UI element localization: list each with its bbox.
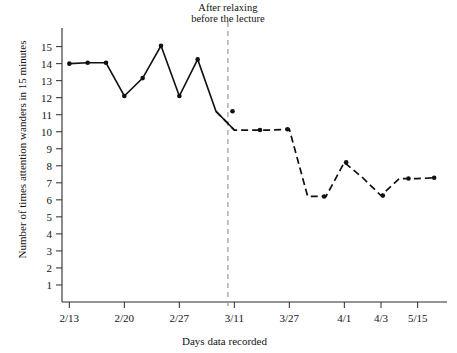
x-tick-label: 4/1 [337, 312, 351, 324]
after-relaxing-phase-line [216, 111, 436, 196]
x-tick-label: 2/27 [170, 312, 190, 324]
y-tick-label: 14 [41, 58, 53, 70]
x-tick-label: 2/13 [60, 312, 80, 324]
y-axis-title: Number of times attention wanders in 15 … [16, 41, 28, 259]
data-point-marker [159, 43, 164, 48]
y-tick-label: 15 [41, 41, 53, 53]
data-point-markers [67, 43, 436, 198]
data-point-marker [432, 175, 437, 180]
data-point-marker [140, 76, 145, 81]
data-point-marker [122, 94, 127, 99]
y-tick-label: 12 [41, 92, 52, 104]
y-tick-label: 3 [47, 245, 53, 257]
y-tick-label: 1 [47, 279, 53, 291]
data-point-marker [85, 60, 90, 65]
data-point-marker [285, 127, 290, 132]
annotation-line-1: After relaxing [198, 2, 258, 13]
data-point-marker [195, 57, 200, 62]
data-point-marker [104, 60, 109, 65]
x-tick-label: 2/20 [115, 312, 135, 324]
y-tick-label: 5 [47, 211, 53, 223]
x-tick-label: 3/11 [225, 312, 244, 324]
y-tick-label: 10 [41, 126, 53, 138]
y-tick-label: 7 [47, 177, 53, 189]
x-tick-label: 3/27 [280, 312, 300, 324]
data-point-marker [381, 193, 386, 198]
data-point-marker [406, 176, 411, 181]
data-point-marker [322, 194, 327, 199]
x-axis-ticks: 2/132/202/273/113/274/14/35/15 [60, 302, 428, 324]
y-tick-label: 9 [47, 143, 53, 155]
data-point-marker [67, 61, 72, 66]
y-tick-label: 13 [41, 75, 53, 87]
y-tick-label: 8 [47, 160, 53, 172]
data-point-marker [177, 94, 182, 99]
annotation-line-2: before the lecture [191, 13, 265, 24]
y-axis-ticks: 123456789101112131415 [41, 41, 62, 291]
y-tick-label: 6 [47, 194, 53, 206]
y-tick-label: 11 [41, 109, 52, 121]
data-point-marker [344, 160, 349, 165]
x-tick-label: 4/3 [374, 312, 389, 324]
x-tick-label: 5/15 [408, 312, 428, 324]
data-point-marker [258, 128, 263, 133]
chart-container: 123456789101112131415 2/132/202/273/113/… [0, 0, 457, 353]
baseline-phase-line [69, 46, 234, 130]
y-tick-label: 2 [47, 262, 53, 274]
y-tick-label: 4 [47, 228, 53, 240]
data-point-marker [230, 109, 235, 114]
x-axis-title: Days data recorded [182, 335, 267, 347]
attention-wanders-line-chart: 123456789101112131415 2/132/202/273/113/… [0, 0, 457, 353]
